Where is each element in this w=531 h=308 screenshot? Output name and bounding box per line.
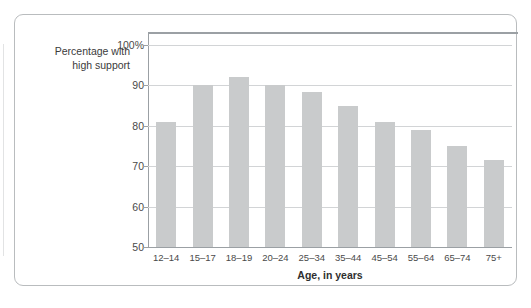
y-axis-tick-mark	[143, 45, 148, 46]
bar	[411, 130, 431, 247]
x-axis-line	[148, 247, 512, 248]
gridline	[148, 45, 512, 46]
x-axis-tick-label: 18–19	[226, 252, 252, 263]
bar	[484, 160, 504, 247]
y-axis-tick-mark	[143, 207, 148, 208]
x-axis-tick-label: 45–54	[371, 252, 397, 263]
y-axis-tick-label: 70	[102, 160, 144, 172]
bar	[193, 85, 213, 247]
x-axis-tick-label: 75+	[486, 252, 502, 263]
y-axis-tick-label: 80	[102, 120, 144, 132]
y-axis-tick-mark	[143, 126, 148, 127]
y-axis-tick-mark	[143, 85, 148, 86]
x-axis-tick-label: 25–34	[299, 252, 325, 263]
y-axis-tick-mark	[143, 166, 148, 167]
y-axis-tick-label: 90	[102, 79, 144, 91]
bar	[338, 106, 358, 247]
bar	[447, 146, 467, 247]
bar	[302, 92, 322, 247]
bar	[156, 122, 176, 247]
x-axis-tick-label: 35–44	[335, 252, 361, 263]
y-axis-tick-label: 100%	[102, 39, 144, 51]
x-axis-tick-label: 55–64	[408, 252, 434, 263]
x-axis-tick-label: 15–17	[189, 252, 215, 263]
figure-container: Percentage with high support 50607080901…	[0, 0, 531, 308]
page-margin-rule	[3, 44, 4, 256]
x-axis-title: Age, in years	[148, 269, 512, 281]
x-axis-tick-label: 12–14	[153, 252, 179, 263]
x-axis-tick-label: 65–74	[444, 252, 470, 263]
bar	[265, 85, 285, 247]
plot-area	[148, 33, 512, 247]
bar	[375, 122, 395, 247]
y-axis-tick-label: 50	[102, 241, 144, 253]
y-axis-tick-labels: 5060708090100%	[96, 0, 144, 308]
x-axis-tick-label: 20–24	[262, 252, 288, 263]
bar	[229, 77, 249, 247]
y-axis-tick-label: 60	[102, 201, 144, 213]
y-axis-tick-mark	[143, 247, 148, 248]
